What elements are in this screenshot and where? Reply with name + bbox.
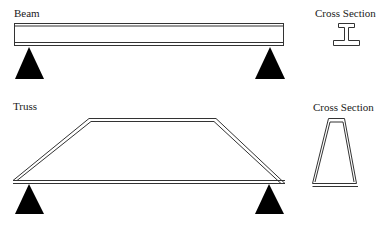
beam-left-support-icon [15, 47, 44, 79]
beam-right-support-icon [255, 47, 285, 79]
beam [15, 24, 284, 46]
truss-left-support-icon [15, 184, 44, 214]
truss-right-support-icon [255, 184, 284, 214]
trapezoid-cross-section-icon [313, 119, 359, 187]
structure-diagram [0, 0, 383, 226]
i-beam-cross-section-icon [334, 24, 360, 46]
truss [13, 119, 285, 184]
